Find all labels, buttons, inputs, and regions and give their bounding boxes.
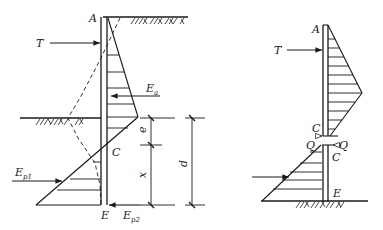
label-t: T xyxy=(36,37,45,50)
right-diagram xyxy=(252,25,368,208)
bottom-ground xyxy=(261,201,368,208)
label-q-left: Q xyxy=(306,139,315,152)
lower-pressure-diagram xyxy=(262,145,322,201)
label-c-lower: C xyxy=(332,151,341,164)
dimension-lines xyxy=(140,115,205,208)
label-c: C xyxy=(112,146,121,159)
top-ground-surface xyxy=(103,17,188,24)
net-pressure-line xyxy=(36,117,138,205)
passive-pressure-diagram xyxy=(36,162,101,205)
upper-pressure-diagram xyxy=(328,25,362,136)
label-dim-d: d xyxy=(177,160,190,167)
label-ep2: Ep2 xyxy=(122,209,141,224)
sheet-pile-diagram: A T Ea C Ep1 E Ep2 e x d xyxy=(0,0,383,230)
excavation-ground xyxy=(20,118,101,125)
label-ep1: Ep1 xyxy=(14,166,32,181)
label-dim-e: e xyxy=(136,126,149,133)
label-a: A xyxy=(88,12,97,25)
active-pressure-diagram xyxy=(107,18,138,128)
soil-hatch-icon xyxy=(131,18,184,24)
label-c-upper: C xyxy=(312,122,321,135)
soil-hatch-icon xyxy=(36,119,83,125)
soil-hatch-icon xyxy=(296,202,344,208)
label-e-bottom: E xyxy=(100,209,109,222)
deflection-curve xyxy=(68,18,120,204)
label-a-right: A xyxy=(311,23,320,36)
label-dim-x: x xyxy=(136,171,149,178)
label-e-right: E xyxy=(332,187,341,200)
sheet-pile-wall xyxy=(101,17,107,205)
label-t-right: T xyxy=(274,44,283,57)
label-ea: Ea xyxy=(145,82,158,97)
